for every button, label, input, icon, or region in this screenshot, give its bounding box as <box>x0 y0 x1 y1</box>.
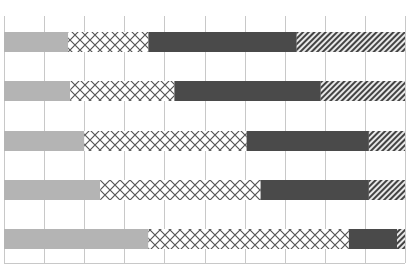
chart-bars <box>4 32 405 249</box>
bar-3-segment-1 <box>4 131 84 151</box>
bar-1-segment-4 <box>297 32 405 52</box>
bar-3-segment-3 <box>247 131 369 151</box>
bar-5-segment-4 <box>397 229 405 249</box>
bar-2-segment-2 <box>70 81 174 101</box>
bar-1 <box>4 32 405 52</box>
bar-4-segment-4 <box>369 180 405 200</box>
bar-4-segment-3 <box>261 180 369 200</box>
bar-2-segment-3 <box>174 81 320 101</box>
bar-3-segment-4 <box>369 131 405 151</box>
bar-1-segment-2 <box>68 32 148 52</box>
bar-4-segment-1 <box>4 180 100 200</box>
bar-2 <box>4 81 405 101</box>
bar-1-segment-1 <box>4 32 68 52</box>
bar-4-segment-2 <box>100 180 260 200</box>
bar-3-segment-2 <box>84 131 246 151</box>
bar-4 <box>4 180 405 200</box>
bar-5-segment-3 <box>349 229 397 249</box>
bar-1-segment-3 <box>148 32 296 52</box>
bar-2-segment-4 <box>321 81 405 101</box>
bar-5 <box>4 229 405 249</box>
stacked-bar-chart <box>0 0 418 277</box>
bar-5-segment-2 <box>148 229 349 249</box>
bar-2-segment-1 <box>4 81 70 101</box>
bar-3 <box>4 131 405 151</box>
bar-5-segment-1 <box>4 229 148 249</box>
